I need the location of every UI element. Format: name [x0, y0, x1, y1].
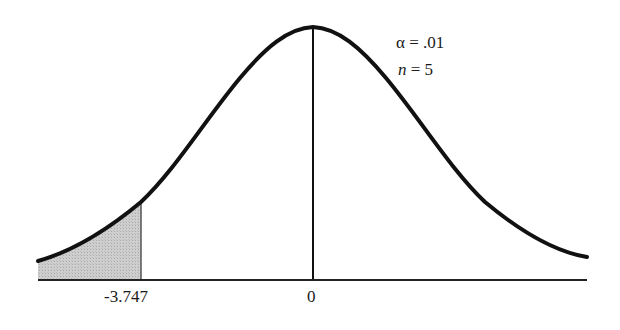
sample-size-annotation: n = 5	[398, 60, 433, 80]
n-value: = 5	[407, 60, 434, 79]
alpha-annotation: α = .01	[396, 33, 444, 53]
critical-value-tick-label: -3.747	[104, 287, 148, 307]
t-distribution-chart	[0, 0, 620, 330]
n-symbol: n	[398, 60, 407, 79]
zero-tick-label: 0	[307, 287, 316, 307]
